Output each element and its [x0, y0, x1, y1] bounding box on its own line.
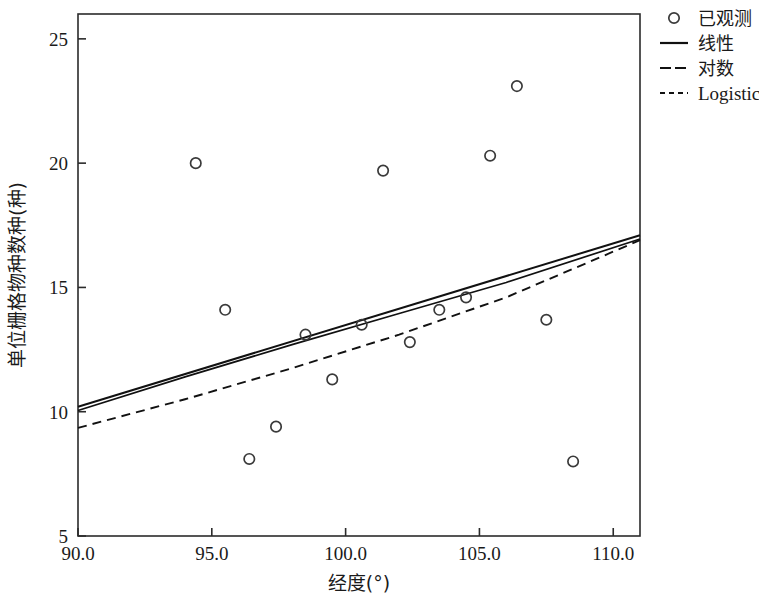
legend-marker-open-circle [669, 13, 679, 23]
plot-frame [78, 14, 640, 536]
data-point [405, 337, 415, 347]
chart-svg: 90.095.0100.0105.0110.0 510152025 经度(°) … [0, 0, 759, 598]
x-tick-label: 110.0 [592, 543, 634, 564]
data-point [191, 158, 201, 168]
data-point [512, 81, 522, 91]
y-tick-label: 5 [59, 526, 69, 547]
y-tick-label: 15 [49, 277, 68, 298]
legend-label: 线性 [698, 33, 734, 54]
legend-label: 对数 [698, 58, 734, 79]
data-point [327, 374, 337, 384]
x-tick-label: 105.0 [458, 543, 501, 564]
data-point [568, 456, 578, 466]
x-tick-label: 95.0 [195, 543, 228, 564]
y-tick-label: 25 [49, 29, 68, 50]
legend-label: Logistic [698, 83, 759, 104]
logistic-fit-line [78, 240, 640, 428]
observed-data-points [191, 81, 579, 467]
logarithmic-fit-line [78, 239, 640, 411]
y-tick-label: 10 [49, 402, 68, 423]
x-tick-label: 100.0 [324, 543, 367, 564]
scatter-plot-figure: 90.095.0100.0105.0110.0 510152025 经度(°) … [0, 0, 759, 598]
data-point [220, 305, 230, 315]
y-tick-label: 20 [49, 153, 68, 174]
data-point [378, 165, 388, 175]
data-point [434, 305, 444, 315]
y-axis-tick-labels: 510152025 [49, 29, 68, 547]
x-axis-tick-labels: 90.095.0100.0105.0110.0 [61, 543, 634, 564]
data-point [485, 150, 495, 160]
x-axis-ticks [78, 528, 613, 536]
x-axis-title: 经度(°) [328, 572, 390, 594]
y-axis-ticks [78, 39, 86, 536]
y-axis-title: 单位栅格物种数种(种) [6, 182, 28, 368]
data-point [541, 315, 551, 325]
chart-legend: 已观测线性对数Logistic [660, 8, 759, 104]
legend-label: 已观测 [698, 8, 752, 29]
data-point [244, 454, 254, 464]
data-point [271, 421, 281, 431]
